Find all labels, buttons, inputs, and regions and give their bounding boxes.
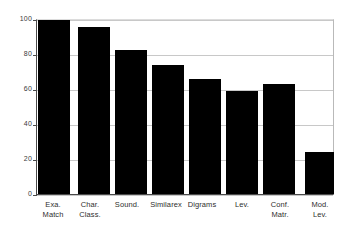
bar-conf-matr (263, 84, 295, 194)
tick-mark-80 (33, 55, 37, 56)
xlabel-line-2: Class. (68, 210, 112, 220)
xlabel-digrams: Digrams (179, 200, 225, 210)
ytick-label-0: 0 (6, 190, 32, 198)
gridline-0 (37, 195, 333, 196)
bar-mod-lev (305, 152, 334, 194)
tick-mark-0 (33, 195, 37, 196)
bar-sound (115, 50, 147, 194)
bar-chart: 100 80 60 40 20 0 Exa. Match Char. Class… (0, 0, 356, 236)
xlabel-line-1: Digrams (179, 200, 225, 210)
bar-char-class (78, 27, 110, 194)
bar-digrams (189, 79, 221, 194)
xlabel-conf-matr: Conf. Matr. (258, 200, 302, 220)
ytick-label-100: 100 (6, 15, 32, 23)
ytick-label-20: 20 (6, 155, 32, 163)
tick-mark-60 (33, 90, 37, 91)
xlabel-line-1: Mod. (298, 200, 342, 210)
plot-area (36, 19, 334, 195)
tick-mark-40 (33, 125, 37, 126)
bar-lev (226, 91, 258, 194)
bar-similarex (152, 65, 184, 194)
gridline-100 (37, 20, 333, 21)
tick-mark-20 (33, 160, 37, 161)
xlabel-mod-lev: Mod. Lev. (298, 200, 342, 220)
xlabel-line-2: Lev. (298, 210, 342, 220)
xlabel-line-1: Conf. (258, 200, 302, 210)
ytick-label-40: 40 (6, 120, 32, 128)
xlabel-line-2: Matr. (258, 210, 302, 220)
tick-mark-100 (33, 20, 37, 21)
bar-exa-match (38, 20, 70, 194)
ytick-label-60: 60 (6, 85, 32, 93)
ytick-label-80: 80 (6, 50, 32, 58)
